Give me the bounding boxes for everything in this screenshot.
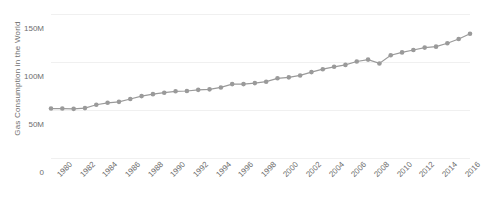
data-point-marker [468, 31, 473, 36]
data-point-marker [162, 90, 167, 95]
x-axis-tick-label: 2000 [282, 160, 301, 179]
series-line [51, 34, 470, 109]
x-axis-tick-label: 2016 [463, 160, 482, 179]
data-point-marker [411, 48, 416, 53]
data-point-marker [207, 87, 212, 92]
data-point-marker [71, 107, 76, 112]
data-point-marker [343, 63, 348, 68]
x-axis-tick-label: 1980 [55, 160, 74, 179]
data-point-marker [445, 41, 450, 46]
x-axis-tick-labels: 1980198219841986198819901992199419961998… [51, 160, 470, 197]
gas-consumption-line-chart: Gas Consumption in the World 050M100M150… [0, 0, 498, 197]
data-point-marker [332, 65, 337, 70]
data-point-marker [185, 89, 190, 94]
data-point-marker [253, 81, 258, 86]
x-axis-tick-label: 2008 [372, 160, 391, 179]
data-point-marker [117, 100, 122, 105]
data-point-marker [434, 44, 439, 49]
data-point-marker [151, 92, 156, 97]
x-axis-tick-label: 1990 [168, 160, 187, 179]
x-axis-tick-label: 2010 [395, 160, 414, 179]
data-point-marker [264, 79, 269, 84]
x-axis-tick-label: 1982 [78, 160, 97, 179]
data-point-marker [366, 57, 371, 62]
data-point-marker [105, 101, 110, 106]
data-point-marker [173, 89, 178, 94]
data-point-marker [456, 37, 461, 42]
x-axis-tick-label: 1988 [146, 160, 165, 179]
x-axis-tick-label: 1994 [214, 160, 233, 179]
data-point-marker [275, 76, 280, 81]
x-axis-tick-label: 2004 [327, 160, 346, 179]
x-axis-tick-label: 2006 [350, 160, 369, 179]
x-axis-tick-label: 2012 [418, 160, 437, 179]
y-axis-tick-label: 100M [24, 72, 44, 81]
data-point-marker [60, 106, 65, 111]
x-axis-tick-label: 2014 [440, 160, 459, 179]
data-point-marker [298, 73, 303, 78]
data-point-marker [241, 82, 246, 87]
data-point-marker [128, 97, 133, 102]
data-point-marker [94, 102, 99, 107]
y-axis-tick-labels: 050M100M150M [0, 14, 48, 158]
data-point-marker [309, 70, 314, 75]
x-axis-tick-label: 1992 [191, 160, 210, 179]
y-axis-tick-label: 150M [24, 24, 44, 33]
series-gas-consumption [51, 14, 470, 158]
x-axis-tick-label: 2002 [304, 160, 323, 179]
x-axis-tick-label: 1996 [236, 160, 255, 179]
data-point-marker [230, 82, 235, 87]
data-point-marker [354, 59, 359, 64]
data-point-marker [49, 106, 54, 111]
x-axis-tick-label: 1998 [259, 160, 278, 179]
x-axis-tick-label: 1984 [101, 160, 120, 179]
data-point-marker [388, 53, 393, 58]
data-point-marker [287, 75, 292, 80]
data-point-marker [422, 45, 427, 50]
data-point-marker [196, 88, 201, 93]
y-axis-tick-label: 50M [28, 120, 44, 129]
data-point-marker [400, 50, 405, 55]
data-point-marker [219, 85, 224, 90]
data-point-marker [83, 106, 88, 111]
data-point-marker [320, 67, 325, 72]
x-axis-tick-label: 1986 [123, 160, 142, 179]
plot-area [51, 14, 470, 158]
y-axis-tick-label: 0 [40, 168, 44, 177]
data-point-marker [139, 94, 144, 99]
data-point-marker [377, 61, 382, 66]
